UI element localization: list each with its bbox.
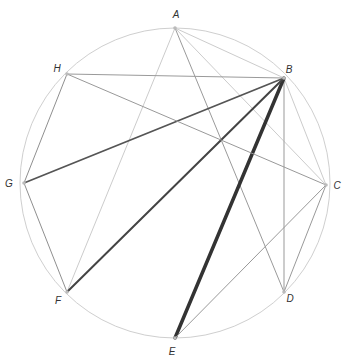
vertex-f-label: F	[55, 295, 62, 306]
vertex-e-label: E	[169, 346, 176, 357]
vertices-group	[22, 26, 328, 340]
vertex-d-point	[282, 290, 286, 294]
edge-a-b	[175, 28, 284, 78]
edge-g-h	[24, 74, 67, 183]
vertex-g-point	[22, 181, 26, 185]
vertex-labels-group: ABCDEFGH	[5, 9, 341, 357]
vertex-f-point	[65, 290, 69, 294]
edge-b-h	[67, 74, 284, 78]
vertex-e-point	[173, 336, 177, 340]
vertex-a-label: A	[172, 9, 180, 20]
vertex-a-point	[173, 26, 177, 30]
vertex-h-label: H	[53, 63, 61, 74]
edge-c-h	[67, 74, 326, 185]
vertex-h-point	[65, 72, 69, 76]
vertex-b-point	[282, 76, 286, 80]
edges-group	[24, 28, 326, 338]
edge-b-c	[284, 78, 326, 185]
vertex-d-label: D	[286, 293, 293, 304]
edge-b-e	[175, 78, 284, 338]
vertex-c-point	[324, 183, 328, 187]
vertex-b-label: B	[286, 64, 293, 75]
circle-graph-diagram: ABCDEFGH	[0, 0, 352, 362]
edge-f-g	[24, 183, 67, 292]
edge-c-e	[175, 185, 326, 338]
vertex-c-label: C	[333, 180, 341, 191]
vertex-g-label: G	[5, 178, 13, 189]
